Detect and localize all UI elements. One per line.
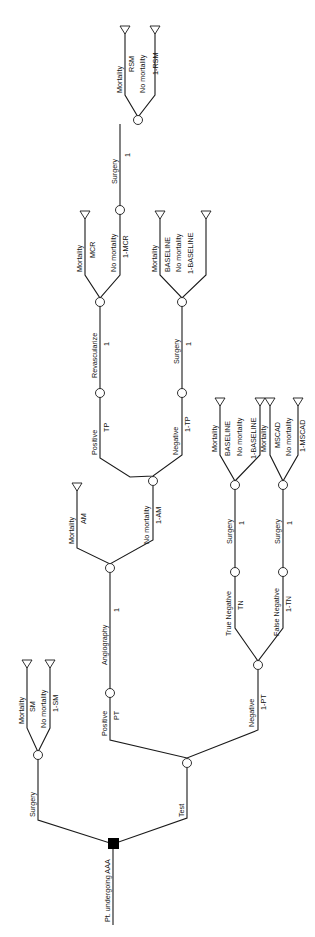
label: No mortality [109, 233, 118, 272]
label: No mortality [39, 689, 48, 728]
label: Surgery [225, 518, 234, 544]
tn-surgery-chance-node[interactable] [231, 481, 240, 490]
test-branch-label: Test [177, 804, 186, 817]
prob: 1-MCR [121, 235, 130, 258]
label: Negative [247, 699, 256, 727]
terminal-triangle-icon [80, 211, 90, 219]
prob: TP [102, 423, 111, 432]
test-chance-node[interactable] [183, 759, 192, 768]
prob: 1-RSM [151, 53, 160, 75]
label: False Negative [272, 588, 281, 636]
positive-node[interactable] [106, 689, 115, 698]
surgery-1tp-chance-node[interactable] [178, 298, 187, 307]
fn-surgery-chance-node[interactable] [279, 481, 288, 490]
negative-1pt-node[interactable] [254, 661, 263, 670]
terminal-triangle-icon [150, 26, 160, 34]
prob: 1-PT [259, 694, 268, 710]
positive-tp-node[interactable] [96, 389, 105, 398]
label: Negative [171, 427, 180, 455]
terminal-triangle-icon [215, 398, 225, 406]
terminal-triangle-icon [45, 660, 55, 668]
label: Positive [90, 430, 99, 455]
prob: 1-BASELINE [186, 232, 195, 274]
surgery-branch-label: Surgery [28, 791, 37, 817]
prob: 1 [112, 608, 121, 612]
prob: 1-AM [154, 507, 163, 524]
angiography-chance-node[interactable] [106, 564, 115, 573]
prob: BASELINE [163, 237, 172, 272]
label: No mortality [174, 233, 183, 272]
terminal-triangle-icon [255, 398, 265, 406]
label: Surgery [172, 338, 181, 364]
terminal-triangle-icon [265, 398, 275, 406]
false-negative-node[interactable] [279, 568, 288, 577]
prob: AM [79, 513, 88, 524]
prob: SM [28, 701, 37, 712]
label: Mortality [259, 424, 268, 452]
negative-1tp-node[interactable] [178, 389, 187, 398]
prob: 1-TN [284, 596, 293, 612]
decision-tree-canvas: Pt. undergoing AAA Surgery Test Mortalit… [0, 0, 315, 937]
prob: TN [236, 600, 245, 610]
no-mortality-mcr-node[interactable] [116, 206, 125, 215]
label: Mortality [115, 65, 124, 93]
terminal-triangle-icon [22, 660, 32, 668]
terminal-nodes [22, 26, 303, 668]
root-decision-node[interactable] [108, 838, 119, 849]
terminal-triangle-icon [155, 211, 165, 219]
label: Revascularize [90, 333, 99, 378]
terminal-triangle-icon [201, 211, 211, 219]
prob: RSM [127, 56, 136, 72]
true-negative-node[interactable] [231, 568, 240, 577]
prob: 1-MSCAD [298, 420, 307, 452]
prob: 1 [184, 342, 193, 346]
label: Surgery [110, 158, 119, 184]
label: Mortality [17, 696, 26, 724]
label: No mortality [138, 54, 147, 93]
tree-labels: Pt. undergoing AAA Surgery Test Mortalit… [17, 53, 307, 922]
label: Mortality [210, 424, 219, 452]
prob: MCR [88, 242, 97, 258]
label: Angiography [100, 624, 109, 665]
label: No mortality [284, 417, 293, 456]
label: Mortality [67, 516, 76, 544]
prob: 1 [102, 342, 111, 346]
prob: BASELINE [223, 421, 232, 456]
terminal-triangle-icon [120, 26, 130, 34]
prob: 1-SM [51, 695, 60, 712]
rsm-surgery-chance-node[interactable] [134, 116, 143, 125]
tree-edges [27, 33, 298, 925]
prob: PT [112, 710, 121, 720]
label: Positive [100, 711, 109, 736]
root-label: Pt. undergoing AAA [103, 859, 112, 922]
prob: 1 [237, 521, 246, 525]
label: No mortality [142, 505, 151, 544]
prob: 1 [123, 153, 132, 157]
revascularize-chance-node[interactable] [96, 298, 105, 307]
label: True Negative [224, 591, 233, 636]
prob: MSCAD [273, 422, 282, 448]
terminal-triangle-icon [72, 483, 82, 491]
terminal-triangle-icon [293, 398, 303, 406]
label: Surgery [273, 518, 282, 544]
prob: 1-BASELINE [249, 417, 258, 459]
surgery-chance-node[interactable] [34, 751, 43, 760]
label: Mortality [75, 244, 84, 272]
label: No mortality [235, 417, 244, 456]
prob: 1-TP [183, 416, 192, 432]
no-mortality-am-node[interactable] [149, 477, 158, 486]
label: Mortality [150, 244, 159, 272]
prob: 1 [285, 521, 294, 525]
